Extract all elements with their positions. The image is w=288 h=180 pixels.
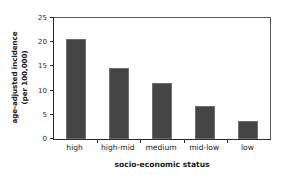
y-axis-tick-label: 25 bbox=[38, 15, 47, 22]
bar bbox=[238, 121, 258, 139]
bar bbox=[109, 68, 129, 139]
x-axis-tick-label: high bbox=[66, 143, 83, 153]
bars-layer bbox=[54, 18, 270, 139]
bar bbox=[66, 39, 86, 139]
x-axis-tick-label: mid-low bbox=[189, 143, 219, 153]
bar bbox=[195, 106, 215, 139]
y-axis-tick-label: 10 bbox=[38, 87, 47, 94]
y-axis-title: age-adjusted incidence (per 100,000) bbox=[6, 14, 32, 140]
x-axis-tick-label: medium bbox=[145, 143, 176, 153]
bar-chart-figure: age-adjusted incidence (per 100,000) 051… bbox=[0, 0, 288, 180]
y-axis-tick-label: 20 bbox=[38, 39, 47, 46]
y-axis-tick-label: 0 bbox=[43, 136, 47, 143]
x-axis-title: socio-economic status bbox=[53, 160, 271, 170]
y-axis-tick-label: 15 bbox=[38, 63, 47, 70]
y-axis-tick-label: 5 bbox=[43, 111, 47, 118]
bar bbox=[152, 83, 172, 139]
y-axis-title-line-2: (per 100,000) bbox=[19, 31, 29, 123]
x-axis-tick-labels: highhigh-midmediummid-lowlow bbox=[53, 143, 271, 155]
x-axis-tick-label: high-mid bbox=[101, 143, 135, 153]
plot-area: 0510152025 bbox=[53, 17, 271, 140]
x-axis-tick-label: low bbox=[241, 143, 254, 153]
y-axis-title-line-1: age-adjusted incidence bbox=[10, 31, 20, 123]
